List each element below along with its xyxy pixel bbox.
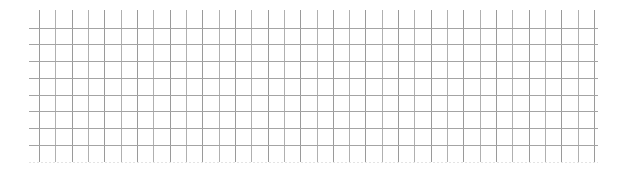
grid-background bbox=[0, 0, 628, 170]
grid-paper bbox=[0, 0, 628, 170]
